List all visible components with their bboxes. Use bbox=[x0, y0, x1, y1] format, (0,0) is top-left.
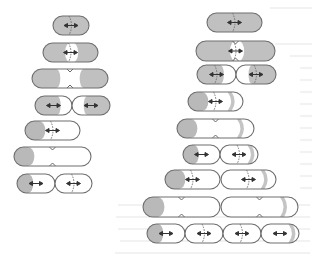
division-stage-4 bbox=[35, 96, 110, 115]
bacterial-cell bbox=[165, 170, 220, 189]
bacterial-cell bbox=[220, 145, 258, 164]
bacterial-cell bbox=[143, 197, 220, 217]
division-stage-7 bbox=[17, 174, 92, 193]
bacterial-cell bbox=[32, 68, 108, 89]
division-stage-4 bbox=[188, 92, 243, 111]
bacterial-cell bbox=[147, 224, 185, 243]
right-series bbox=[143, 13, 299, 243]
growth-zone bbox=[52, 69, 60, 88]
bacterial-cell bbox=[25, 121, 80, 140]
bacterial-cell bbox=[183, 145, 220, 164]
bacterial-cell bbox=[14, 147, 91, 166]
division-stage-6 bbox=[183, 145, 258, 164]
bacterial-cell bbox=[188, 92, 243, 111]
old-pole bbox=[151, 197, 164, 217]
bacterial-cell bbox=[236, 65, 276, 84]
bacterial-cell bbox=[261, 224, 299, 243]
bacterial-cell bbox=[53, 16, 89, 35]
cells-layer bbox=[14, 13, 299, 243]
division-stage-2 bbox=[43, 42, 98, 63]
division-stage-1 bbox=[53, 16, 89, 35]
division-stage-5 bbox=[177, 119, 254, 138]
old-pole bbox=[196, 92, 209, 111]
bacterial-cell bbox=[72, 96, 110, 115]
bacterial-cell bbox=[35, 96, 72, 115]
bacterial-cell bbox=[185, 224, 223, 243]
division-stage-5 bbox=[25, 121, 80, 140]
bacterial-cell bbox=[207, 13, 262, 32]
bacterial-cell bbox=[221, 170, 276, 189]
old-pole bbox=[185, 119, 198, 138]
division-stage-6 bbox=[14, 147, 91, 166]
division-stage-3 bbox=[197, 65, 276, 84]
division-stage-1 bbox=[207, 13, 262, 32]
old-pole bbox=[22, 147, 35, 166]
division-stage-8 bbox=[143, 197, 298, 217]
bacterial-cell bbox=[221, 197, 298, 217]
bacterial-cell bbox=[177, 119, 254, 138]
division-stage-7 bbox=[165, 170, 276, 189]
left-series bbox=[14, 16, 110, 193]
bacterial-cell bbox=[223, 224, 261, 243]
bacterial-cell bbox=[55, 174, 92, 193]
bacterial-cell bbox=[43, 42, 98, 63]
growth-zone bbox=[80, 69, 88, 88]
old-pole bbox=[33, 121, 46, 140]
division-stage-3 bbox=[32, 68, 108, 89]
cell-division-diagram bbox=[0, 0, 313, 257]
bacterial-cell bbox=[196, 40, 275, 62]
bacterial-cell bbox=[197, 65, 236, 84]
bacterial-cell bbox=[17, 174, 55, 193]
old-pole bbox=[173, 170, 186, 189]
division-stage-2 bbox=[196, 40, 275, 62]
